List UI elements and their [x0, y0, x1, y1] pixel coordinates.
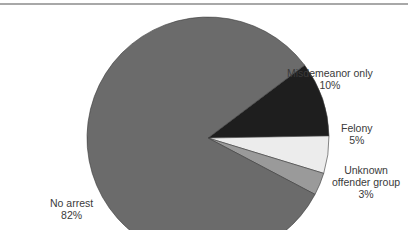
label-misdemeanor: Misdemeanor only 10% — [287, 67, 373, 91]
label-felony-pct: 5% — [341, 134, 373, 146]
label-felony-name: Felony — [341, 122, 373, 134]
label-misdemeanor-pct: 10% — [287, 79, 373, 91]
label-unknown-line1: Unknown — [332, 164, 400, 176]
label-no-arrest-pct: 82% — [50, 209, 93, 221]
label-unknown-pct: 3% — [332, 188, 400, 200]
label-felony: Felony 5% — [341, 122, 373, 146]
label-no-arrest: No arrest 82% — [50, 197, 93, 221]
label-unknown-line2: offender group — [332, 176, 400, 188]
label-unknown: Unknown offender group 3% — [332, 164, 400, 200]
label-misdemeanor-name: Misdemeanor only — [287, 67, 373, 79]
label-no-arrest-name: No arrest — [50, 197, 93, 209]
